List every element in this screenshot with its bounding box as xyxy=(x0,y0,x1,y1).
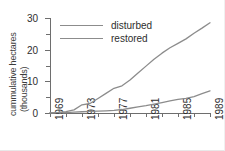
x-tick-1979 xyxy=(130,113,131,117)
y-tick-label-20: 20 xyxy=(27,44,38,55)
legend-label-disturbed: disturbed xyxy=(111,20,152,31)
x-tick-1971 xyxy=(66,113,67,117)
x-tick-label-1989: 1989 xyxy=(214,98,225,120)
x-tick-1975 xyxy=(98,113,99,117)
x-tick-1977 xyxy=(114,113,115,117)
y-tick-label-10: 10 xyxy=(27,76,38,87)
x-tick-1983 xyxy=(162,113,163,117)
y-axis-title-line2: (thousands) xyxy=(19,67,29,112)
x-tick-1973 xyxy=(82,113,83,117)
y-tick-label-0: 0 xyxy=(32,108,38,119)
legend-item-disturbed: disturbed xyxy=(60,19,152,32)
legend-swatch-disturbed xyxy=(60,25,103,26)
y-axis-title: cummulative hectares (thousands) xyxy=(0,0,30,120)
y-axis-title-line1: cummulative hectares xyxy=(8,32,18,116)
chart-legend: disturbed restored xyxy=(60,19,152,45)
chart-figure: cummulative hectares (thousands) 0102030… xyxy=(0,0,225,151)
x-tick-1981 xyxy=(146,113,147,117)
legend-label-restored: restored xyxy=(111,33,148,44)
legend-item-restored: restored xyxy=(60,32,152,45)
x-tick-1969 xyxy=(50,113,51,117)
x-tick-1989 xyxy=(210,113,211,117)
legend-swatch-restored xyxy=(60,38,103,39)
y-tick-label-30: 30 xyxy=(27,13,38,24)
x-tick-1987 xyxy=(194,113,195,117)
x-tick-1985 xyxy=(178,113,179,117)
